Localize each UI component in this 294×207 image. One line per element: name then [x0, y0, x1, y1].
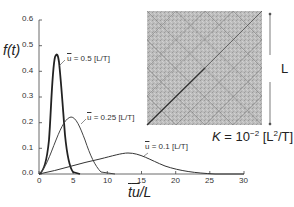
- y-tick-0.6: 0.6: [22, 14, 33, 23]
- x-tick-0: 0: [37, 176, 41, 185]
- annotation-u-0.5: u = 0.5 [L/T]: [67, 54, 110, 63]
- x-tick-10: 10: [103, 176, 112, 185]
- y-tick-0.3: 0.3: [22, 91, 33, 100]
- annotation-u-0.1: u = 0.1 [L/T]: [145, 142, 188, 151]
- leader-line-2: [81, 119, 86, 124]
- x-axis-title: tu/L: [128, 184, 151, 200]
- length-label: L: [281, 61, 288, 76]
- conductivity-label: KK = 10 = 10−2 [L2/T]: [212, 129, 293, 144]
- curve-u-0.5: [39, 55, 80, 174]
- y-axis-title: f(t): [3, 42, 20, 58]
- y-tick-0.4: 0.4: [22, 66, 33, 75]
- x-tick-5: 5: [71, 176, 75, 185]
- annotation-u-0.25: u = 0.25 [L/T]: [87, 113, 134, 122]
- x-tick-20: 20: [171, 176, 180, 185]
- x-tick-30: 30: [239, 176, 248, 185]
- y-tick-0.2: 0.2: [22, 117, 33, 126]
- length-dimension-marker: [269, 13, 271, 125]
- conductivity-field-inset: [147, 11, 262, 125]
- leader-line-3: [144, 153, 148, 156]
- chart-svg: [0, 0, 294, 207]
- y-tick-0.0: 0.0: [22, 168, 33, 177]
- y-tick-0.1: 0.1: [22, 143, 33, 152]
- y-tick-0.5: 0.5: [22, 40, 33, 49]
- x-tick-25: 25: [205, 176, 214, 185]
